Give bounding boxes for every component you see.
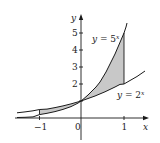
origin-label: 0 bbox=[75, 122, 81, 132]
y-tick-label-4: 4 bbox=[72, 45, 78, 55]
x-axis-label: x bbox=[143, 122, 148, 132]
x-tick-label-1: 1 bbox=[122, 122, 128, 132]
curve-label-2x: y = 2x bbox=[116, 89, 145, 101]
y-tick-label-2: 2 bbox=[72, 79, 78, 89]
x-axis-arrow-icon bbox=[143, 116, 149, 120]
x-tick-label-neg1: −1 bbox=[34, 122, 47, 132]
exponential-graph: x y 0 −1 1 2 3 4 5 y = 5x y = 2x bbox=[0, 0, 160, 143]
curve-label-5x: y = 5x bbox=[91, 33, 120, 45]
y-axis-arrow-icon bbox=[79, 14, 83, 20]
y-tick-label-3: 3 bbox=[72, 62, 78, 72]
y-axis-label: y bbox=[70, 13, 77, 23]
y-tick-label-5: 5 bbox=[72, 28, 78, 38]
